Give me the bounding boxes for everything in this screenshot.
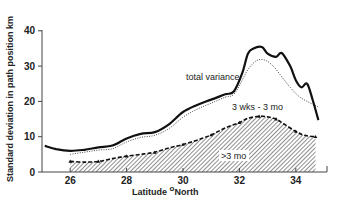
annotation-over-3mo: >3 mo xyxy=(221,151,246,161)
y-tick-label: 0 xyxy=(29,167,35,178)
annotation-3wks-3mo: 3 wks - 3 mo xyxy=(232,102,283,112)
y-axis-title: Standard deviation in path position km xyxy=(5,16,15,182)
x-tick-label: 34 xyxy=(290,175,302,186)
x-tick-label: 30 xyxy=(177,175,189,186)
triangle-marker-icon xyxy=(314,135,318,138)
x-tick-label: 28 xyxy=(121,175,133,186)
y-tick-label: 10 xyxy=(24,131,36,142)
y-tick-label: 30 xyxy=(24,61,36,72)
x-tick-label: 32 xyxy=(234,175,246,186)
x-tick-label: 26 xyxy=(65,175,77,186)
hatched-area-over-3mo xyxy=(70,116,315,172)
annotation-total-variance: total variance xyxy=(186,72,240,82)
y-ticks: 010203040 xyxy=(24,25,42,177)
chart: 010203040 2628303234 total variance 3 wk… xyxy=(0,0,343,205)
y-tick-label: 40 xyxy=(24,25,36,36)
y-tick-label: 20 xyxy=(24,96,36,107)
